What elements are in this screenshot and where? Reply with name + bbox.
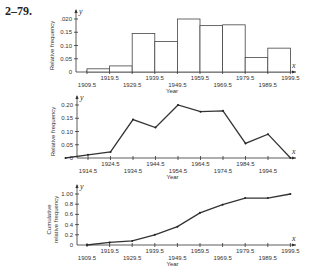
x-tick-label: 1964.5 [191,161,210,167]
data-point [267,197,269,199]
x-tick-label: 1909.5 [78,82,97,88]
histogram-chart: xy00.050.100.15.020Relative frequency190… [49,7,300,94]
histogram-bar [268,48,291,72]
histogram-bar [87,69,110,72]
x-tick-label: 1929.5 [123,255,142,261]
y-tick-label: 1.00 [61,191,73,197]
x-tick-label: 1919.5 [100,75,119,81]
y-axis-letter: y [79,182,84,191]
data-point [222,110,224,112]
data-point [131,240,133,242]
data-point [222,204,224,206]
x-tick-label: 1944.5 [146,161,165,167]
x-tick-label: 1914.5 [79,168,98,174]
x-axis-arrow-icon [292,156,296,159]
x-tick-label: 1939.5 [146,248,165,254]
x-axis-title: Year [166,88,178,94]
data-point [65,157,67,159]
data-point [87,154,89,156]
x-tick-label: 1909.5 [78,255,97,261]
data-line [66,105,291,158]
data-point [290,157,292,159]
data-point [200,111,202,113]
y-tick-label: 0.15 [60,29,72,35]
y-tick-label: 0.10 [61,129,73,135]
y-tick-label: 0.10 [60,43,72,49]
histogram-bar [177,19,200,72]
y-tick-label: 0.6 [65,211,74,217]
data-point [176,226,178,228]
x-axis-arrow-icon [292,70,296,73]
data-point [109,241,111,243]
y-tick-label: 0.15 [61,115,73,121]
x-tick-label: 1999.5 [281,248,300,254]
y-tick-label: 0.05 [61,142,73,148]
data-point [154,234,156,236]
charts-figure: xy00.050.100.15.020Relative frequency190… [0,0,310,276]
x-tick-label: 1979.5 [236,248,255,254]
x-tick-label: 1959.5 [191,75,210,81]
x-tick-label: 1969.5 [213,82,232,88]
data-point [110,151,112,153]
y-axis-letter: y [79,93,84,102]
y-axis-arrow-icon [75,184,78,188]
y-axis-letter: y [78,7,83,16]
data-point [86,244,88,246]
data-line [87,194,290,245]
x-tick-label: 1974.5 [214,168,233,174]
y-axis-arrow-icon [75,95,78,99]
histogram-bar [155,42,178,72]
histogram-bar [200,26,223,72]
x-tick-label: 1989.5 [259,82,278,88]
x-tick-label: 1984.5 [236,161,255,167]
x-tick-label: 1994.5 [259,168,278,174]
ogive-chart: xy00.20.40.60.81.00Cumulativerelative fr… [46,182,300,267]
x-tick-label: 1939.5 [146,75,165,81]
x-tick-label: 1919.5 [100,248,119,254]
y-tick-label: 0.2 [65,232,74,238]
x-tick-label: 1959.5 [191,248,210,254]
y-tick-label: 0.05 [60,56,72,62]
x-tick-label: 1929.5 [123,82,142,88]
histogram-bar [245,57,268,72]
data-point [244,197,246,199]
x-axis-letter: x [291,147,296,156]
histogram-bar [110,66,133,72]
x-axis-title: Year [166,261,178,267]
histogram-bar [223,25,246,72]
y-axis-title: Relative frequency [49,21,55,71]
y-tick-label: 0.20 [61,102,73,108]
x-axis-title: Year [166,174,178,180]
histogram-bar [132,34,155,72]
data-point [245,142,247,144]
data-point [177,104,179,106]
x-tick-label: 1924.5 [101,161,120,167]
y-axis-arrow-icon [74,9,77,13]
data-point [199,212,201,214]
x-axis-letter: x [291,61,296,70]
x-axis-arrow-icon [292,243,296,246]
data-point [155,127,157,129]
x-axis-letter: x [291,234,296,243]
y-axis-title: relative frequency [53,196,59,243]
y-tick-label: 0.4 [65,222,74,228]
y-tick-label: .020 [60,16,72,22]
data-point [132,119,134,121]
y-tick-label: 0.8 [65,201,74,207]
x-tick-label: 1989.5 [259,255,278,261]
x-tick-label: 1979.5 [236,75,255,81]
y-tick-label: 0 [70,242,74,248]
x-tick-label: 1934.5 [124,168,143,174]
y-tick-label: 0 [70,155,74,161]
data-point [267,133,269,135]
y-axis-title: Cumulative [46,204,52,235]
data-point [289,193,291,195]
y-axis-title: Relative frequency [50,107,56,157]
y-tick-label: 0 [69,69,73,75]
x-tick-label: 1969.5 [213,255,232,261]
frequency-polygon-chart: xy00.050.100.150.20Relative frequency191… [50,93,296,180]
x-tick-label: 1999.5 [281,75,300,81]
